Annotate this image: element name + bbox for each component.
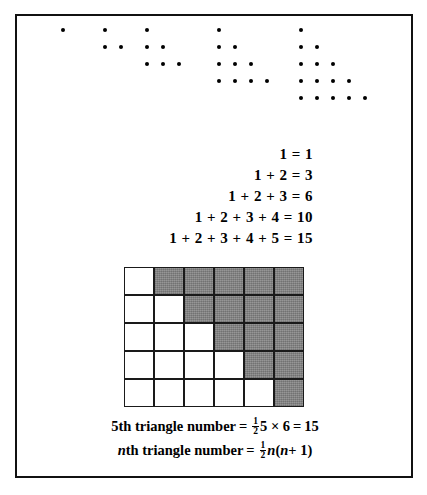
grid-cell-shaded	[214, 295, 244, 323]
grid-row	[124, 379, 304, 407]
dot	[331, 79, 335, 83]
grid-cell-empty	[124, 351, 154, 379]
grid-cell-shaded	[244, 351, 274, 379]
grid-cell-empty	[154, 295, 184, 323]
grid-cell-empty	[154, 351, 184, 379]
equals-sign: =	[246, 442, 254, 458]
one-half-fraction: 12	[252, 417, 259, 435]
dot	[249, 79, 253, 83]
dot	[265, 79, 269, 83]
grid-cell-shaded	[244, 295, 274, 323]
dot	[233, 62, 237, 66]
equation-line: 1 + 2 = 3	[17, 165, 313, 186]
dot	[217, 45, 221, 49]
grid-cell-shaded	[274, 379, 304, 407]
grid-cell-shaded	[154, 267, 184, 295]
fraction-denominator: 2	[252, 426, 259, 436]
dot	[347, 79, 351, 83]
dot	[233, 45, 237, 49]
dot	[161, 45, 165, 49]
dot	[331, 62, 335, 66]
grid-cell-empty	[154, 323, 184, 351]
dot	[331, 96, 335, 100]
dot-patterns	[17, 16, 413, 136]
grid-cell-empty	[124, 295, 154, 323]
equation-line: 1 = 1	[17, 144, 313, 165]
formulas-block: 5th triangle number=125 × 6=15 nth trian…	[17, 414, 413, 462]
grid-cell-empty	[124, 379, 154, 407]
dot	[299, 79, 303, 83]
grid-cell-empty	[184, 351, 214, 379]
dot	[217, 28, 221, 32]
dot	[315, 79, 319, 83]
grid-cell-shaded	[244, 267, 274, 295]
grid-cell-shaded	[214, 267, 244, 295]
fraction-denominator: 2	[260, 450, 267, 460]
fraction-numerator: 1	[260, 441, 267, 450]
grid-cell-shaded	[274, 267, 304, 295]
dot	[299, 62, 303, 66]
grid-cell-shaded	[184, 267, 214, 295]
dot	[119, 45, 123, 49]
grid-cell-empty	[214, 351, 244, 379]
grid-cell-shaded	[274, 295, 304, 323]
dot	[347, 96, 351, 100]
formula-5th-triangle-number: 5th triangle number=125 × 6=15	[17, 414, 413, 438]
staircase-grid	[124, 267, 304, 407]
dot	[103, 45, 107, 49]
grid-cell-shaded	[274, 351, 304, 379]
grid-cell-shaded	[274, 323, 304, 351]
one-half-fraction: 12	[260, 441, 267, 459]
equation-line: 1 + 2 + 3 + 4 = 10	[17, 207, 313, 228]
formula-plus-one: + 1	[288, 442, 307, 458]
staircase-grid-wrapper	[124, 267, 304, 407]
grid-cell-empty	[124, 323, 154, 351]
grid-cell-shaded	[214, 323, 244, 351]
formula-expression: 5 × 6	[260, 418, 290, 434]
dot	[233, 79, 237, 83]
equals-sign: =	[239, 418, 247, 434]
dot	[217, 79, 221, 83]
dot	[145, 28, 149, 32]
grid-row	[124, 351, 304, 379]
grid-row	[124, 267, 304, 295]
equation-line: 1 + 2 + 3 + 4 + 5 = 15	[17, 228, 313, 249]
grid-row	[124, 323, 304, 351]
dot	[299, 45, 303, 49]
equals-sign: =	[293, 418, 301, 434]
dot	[363, 96, 367, 100]
dot	[103, 28, 107, 32]
grid-cell-shaded	[184, 295, 214, 323]
figure-frame: 1 = 1 1 + 2 = 3 1 + 2 + 3 = 6 1 + 2 + 3 …	[15, 14, 413, 478]
grid-cell-empty	[124, 267, 154, 295]
grid-cell-empty	[244, 379, 274, 407]
dot	[299, 28, 303, 32]
dot	[145, 45, 149, 49]
dot	[145, 62, 149, 66]
formula-label: 5th triangle number	[111, 418, 236, 434]
formula-result: 15	[304, 418, 319, 434]
paren-close: )	[308, 442, 313, 458]
grid-cell-empty	[184, 323, 214, 351]
dot	[161, 62, 165, 66]
formula-nth-triangle-number: nth triangle number=12n(n+ 1)	[17, 438, 413, 462]
dot	[217, 62, 221, 66]
formula-label-text: th triangle number	[126, 442, 244, 458]
fraction-numerator: 1	[252, 417, 259, 426]
dot	[315, 96, 319, 100]
formula-label-variable: n	[118, 442, 126, 458]
dot	[315, 45, 319, 49]
dot	[249, 62, 253, 66]
grid-row	[124, 295, 304, 323]
equations-block: 1 = 1 1 + 2 = 3 1 + 2 + 3 = 6 1 + 2 + 3 …	[17, 144, 313, 249]
grid-cell-empty	[154, 379, 184, 407]
grid-cell-shaded	[244, 323, 274, 351]
dot	[299, 96, 303, 100]
grid-cell-empty	[214, 379, 244, 407]
dot	[315, 62, 319, 66]
equation-line: 1 + 2 + 3 = 6	[17, 186, 313, 207]
dot	[61, 28, 65, 32]
grid-cell-empty	[184, 379, 214, 407]
dot	[177, 62, 181, 66]
